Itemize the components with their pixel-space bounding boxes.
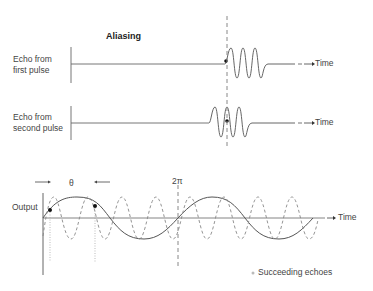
row1-echo-wave <box>225 48 295 78</box>
sample-marker-1 <box>48 208 52 212</box>
row2-echo-wave <box>209 107 295 137</box>
phase-arrow-left-head-icon <box>48 181 51 184</box>
sample-marker-2 <box>93 204 97 208</box>
row1-arrowhead-icon <box>312 62 315 66</box>
diagram-canvas <box>0 0 373 291</box>
output-arrowhead-icon <box>333 216 336 220</box>
row2-arrowhead-icon <box>312 121 315 125</box>
legend-marker-icon <box>252 272 255 275</box>
phase-arrow-right-head-icon <box>94 181 97 184</box>
